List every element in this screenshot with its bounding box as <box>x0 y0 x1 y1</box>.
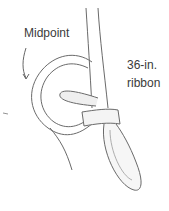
ribbon-wrap-band <box>82 109 120 126</box>
midpoint-label: Midpoint <box>24 26 69 41</box>
ribbon-strand-left-edge <box>86 8 92 108</box>
ribbon-length-label-line2: ribbon <box>127 76 160 91</box>
cut-off-mark <box>3 113 8 114</box>
pointer-arrow-line <box>23 48 26 78</box>
ribbon-inner-fold <box>60 91 98 106</box>
ribbon-length-label-line1: 36-in. <box>127 58 157 73</box>
arrowhead-icon <box>23 74 29 79</box>
ribbon-strand-right-edge <box>98 8 108 108</box>
ribbon-lower-loop <box>103 124 141 190</box>
